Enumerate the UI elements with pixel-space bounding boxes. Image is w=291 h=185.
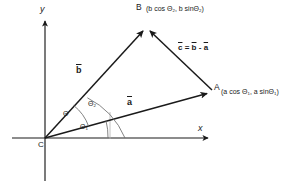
angle-label-theta: Θ xyxy=(63,110,68,117)
point-a-x-expr: a cos Θ xyxy=(223,88,247,95)
vector-b-label: b xyxy=(76,66,82,75)
point-a-x-sub: 1 xyxy=(247,91,249,96)
point-a-y-sub: 1 xyxy=(274,91,276,96)
angle-label-theta1: Θ1 xyxy=(80,123,88,130)
point-b-label: B xyxy=(136,3,142,12)
equation-term1: b xyxy=(192,43,197,52)
vector-diagram-canvas: y x C B (b cos Θ2, b sinΘ2) A (a cos Θ1,… xyxy=(0,0,291,185)
point-a-label: A xyxy=(214,83,220,92)
equation-minus: - xyxy=(199,43,202,52)
angle-theta1-sub: 1 xyxy=(85,126,87,131)
vector-c-line xyxy=(150,31,212,90)
vector-equation: c = b - a xyxy=(178,44,208,52)
angle-theta-symbol: Θ xyxy=(63,110,68,117)
equation-term2: a xyxy=(204,43,208,52)
angle-label-theta2: Θ2 xyxy=(88,100,96,107)
point-b-x-expr: b cos Θ xyxy=(148,5,172,12)
point-a-coordinates: (a cos Θ1, a sinΘ1) xyxy=(221,88,279,95)
vector-a-label: a xyxy=(127,98,132,107)
angle-arc-theta1 xyxy=(106,121,108,138)
vector-a-line xyxy=(45,94,207,139)
equation-lhs: c xyxy=(178,43,182,52)
vector-b-line xyxy=(45,31,143,138)
point-a-y-expr: a sinΘ xyxy=(254,88,274,95)
x-axis-label: x xyxy=(198,124,203,133)
point-b-x-sub: 2 xyxy=(172,8,174,13)
point-b-coordinates: (b cos Θ2, b sinΘ2) xyxy=(146,5,204,12)
point-b-y-sub: 2 xyxy=(199,8,201,13)
equation-equals: = xyxy=(185,43,190,52)
point-b-y-expr: b sinΘ xyxy=(179,5,199,12)
y-axis-label: y xyxy=(40,5,45,14)
origin-label-c: C xyxy=(38,141,44,149)
angle-theta2-sub: 2 xyxy=(93,103,95,108)
